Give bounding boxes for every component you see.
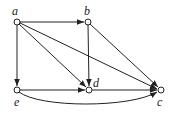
node-c (158, 87, 164, 93)
edge-b-c (90, 24, 158, 87)
label-b: b (84, 4, 90, 18)
label-c: c (157, 95, 163, 109)
node-b (85, 19, 91, 25)
edge-e-c (19, 92, 157, 104)
directed-graph: a b e d c (0, 0, 176, 114)
node-a (14, 19, 20, 25)
edge-b-d (88, 25, 89, 86)
node-d (86, 87, 92, 93)
label-e: e (14, 95, 20, 109)
node-e (14, 87, 20, 93)
label-d: d (93, 76, 100, 90)
edge-a-d (19, 24, 86, 87)
label-a: a (12, 4, 18, 18)
